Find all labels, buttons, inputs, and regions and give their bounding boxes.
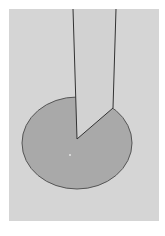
diagram-canvas — [0, 0, 165, 236]
center-dot — [69, 154, 71, 156]
